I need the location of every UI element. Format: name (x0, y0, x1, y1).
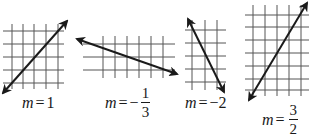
slope-var: m (185, 94, 197, 112)
slope-var: m (105, 94, 117, 112)
numerator: 3 (289, 103, 299, 120)
equals-sign: = (199, 94, 208, 112)
graph-slope-three-halves (245, 3, 309, 100)
fraction: 3 2 (289, 103, 299, 137)
graph-slope-neg-2 (185, 19, 226, 92)
sloped-line-with-arrows (249, 3, 307, 100)
graph-slope-neg-one-third (77, 36, 177, 78)
equals-sign: = (36, 94, 45, 112)
slope-var: m (262, 111, 274, 129)
slope-value: 1 (47, 94, 55, 112)
equals-sign: = (276, 111, 285, 129)
minus-sign: − (130, 94, 139, 112)
denominator: 3 (142, 103, 150, 120)
fraction: 1 3 (141, 86, 151, 120)
slope-label-1: m = 1 (22, 94, 55, 112)
graph-slope-1 (3, 21, 67, 93)
grid (245, 5, 309, 96)
equals-sign: = (119, 94, 128, 112)
numerator: 1 (141, 86, 151, 103)
slope-label-neg-2: m = −2 (185, 94, 227, 112)
denominator: 2 (290, 120, 298, 137)
slope-var: m (22, 94, 34, 112)
slope-label-three-halves: m = 3 2 (262, 103, 298, 137)
slope-label-neg-one-third: m = − 1 3 (105, 86, 150, 120)
slope-value: −2 (210, 94, 227, 112)
